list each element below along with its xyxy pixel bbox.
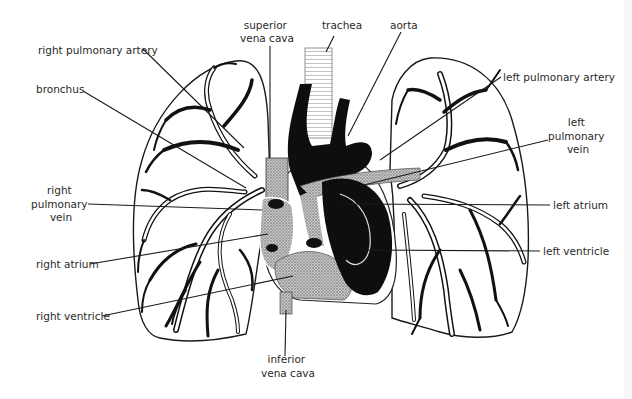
label-right-ventricle: right ventricle (36, 310, 110, 322)
label-left-pulmonary-vein: left pulmonary vein (548, 116, 608, 155)
label-trachea: trachea (322, 19, 362, 31)
left-lung (390, 58, 528, 337)
svc-opening (268, 199, 284, 209)
label-bronchus: bronchus (36, 83, 84, 95)
heart-lungs-diagram: right pulmonary artery bronchus superior… (0, 0, 632, 399)
label-right-pulmonary-vein: right pulmonary vein (31, 184, 91, 223)
label-left-atrium: left atrium (553, 199, 608, 211)
ivc-opening (266, 244, 278, 252)
leader-inferior-vena-cava (285, 310, 286, 356)
label-aorta: aorta (390, 19, 418, 31)
right-lung (133, 61, 270, 341)
label-right-atrium: right atrium (36, 258, 99, 270)
label-superior-vena-cava: superior vena cava (240, 19, 294, 44)
right-lung-outline (133, 61, 270, 341)
label-left-ventricle: left ventricle (543, 245, 609, 257)
label-left-pulmonary-artery: left pulmonary artery (503, 71, 615, 83)
label-inferior-vena-cava: inferior vena cava (261, 353, 315, 379)
label-right-pulmonary-artery: right pulmonary artery (38, 44, 158, 56)
diagram-canvas: right pulmonary artery bronchus superior… (0, 0, 632, 399)
aortic-valve-opening (306, 238, 322, 248)
